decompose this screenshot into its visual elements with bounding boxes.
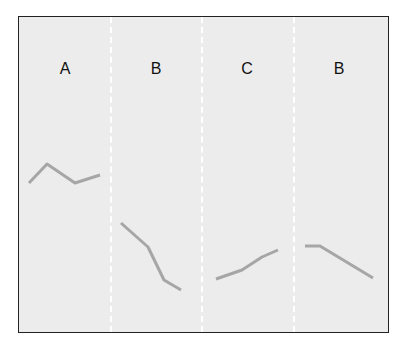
- trend-line-c: [216, 250, 278, 279]
- trend-lines: [0, 0, 398, 346]
- trend-line-a: [29, 164, 100, 183]
- trend-line-b-2: [305, 246, 373, 278]
- trend-line-b: [121, 223, 181, 290]
